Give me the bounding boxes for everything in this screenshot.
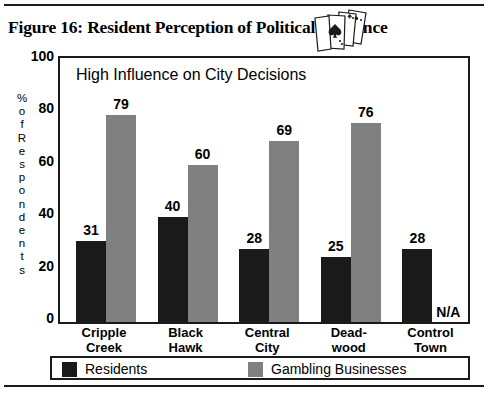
bar-group: 2576 bbox=[319, 58, 401, 322]
bar-value-label: 28 bbox=[400, 230, 434, 246]
bar-residents bbox=[76, 241, 106, 322]
bar-value-label: 60 bbox=[186, 146, 220, 162]
category-label-line: Town bbox=[382, 341, 478, 356]
legend-swatch bbox=[248, 362, 263, 377]
y-axis-tick-label: 20 bbox=[38, 258, 54, 274]
top-divider-rule bbox=[4, 4, 484, 6]
legend-swatch bbox=[62, 362, 77, 377]
y-axis-tick-labels: 020406080100 bbox=[20, 52, 54, 324]
bar-group: 4060 bbox=[156, 58, 238, 322]
bar-gambling bbox=[188, 165, 218, 322]
plot-area: High Influence on City Decisions 3179406… bbox=[58, 56, 470, 324]
bar-residents bbox=[321, 257, 351, 323]
chart-legend: ResidentsGambling Businesses bbox=[50, 356, 470, 380]
bar-gambling bbox=[351, 123, 381, 322]
bar-gambling bbox=[106, 115, 136, 322]
y-axis-tick-label: 100 bbox=[31, 48, 54, 64]
bar-groups: 317940602869257628N/A bbox=[60, 58, 468, 322]
category-label-line: Control bbox=[382, 326, 478, 341]
bar-residents bbox=[158, 217, 188, 322]
legend-item[interactable]: Gambling Businesses bbox=[248, 360, 406, 378]
bar-value-label: 28 bbox=[237, 230, 271, 246]
legend-label: Residents bbox=[85, 361, 147, 377]
bar-group: 2869 bbox=[237, 58, 319, 322]
legend-item[interactable]: Residents bbox=[62, 360, 147, 378]
y-axis-tick-label: 40 bbox=[38, 205, 54, 221]
bar-value-label: 76 bbox=[349, 104, 383, 120]
x-axis-category-labels: CrippleCreekBlackHawkCentralCityDead-woo… bbox=[58, 326, 470, 356]
bar-residents bbox=[239, 249, 269, 322]
bar-value-label: 69 bbox=[267, 122, 301, 138]
playing-cards-spade-icon bbox=[309, 8, 373, 52]
y-axis-tick-label: 80 bbox=[38, 100, 54, 116]
na-marker: N/A bbox=[430, 304, 466, 320]
bar-group: 3179 bbox=[74, 58, 156, 322]
bar-value-label: 40 bbox=[156, 198, 190, 214]
bar-value-label: 79 bbox=[104, 96, 138, 112]
bar-gambling bbox=[269, 141, 299, 322]
bar-value-label: 31 bbox=[74, 222, 108, 238]
legend-label: Gambling Businesses bbox=[271, 361, 406, 377]
y-axis-tick-label: 0 bbox=[46, 310, 54, 326]
y-axis-tick-label: 60 bbox=[38, 153, 54, 169]
bottom-divider-rule bbox=[4, 385, 484, 387]
bar-value-label: 25 bbox=[319, 238, 353, 254]
x-axis-category-label: ControlTown bbox=[382, 326, 478, 355]
bar-group: 28N/A bbox=[400, 58, 482, 322]
bar-residents bbox=[402, 249, 432, 322]
